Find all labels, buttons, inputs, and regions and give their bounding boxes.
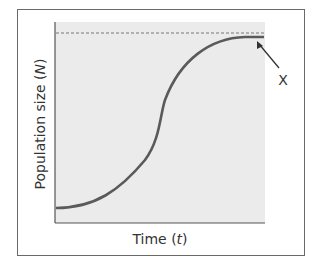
- x-axis-label: Time (t): [132, 231, 187, 247]
- y-axis-label: Population size (N): [32, 58, 48, 189]
- annotation-label: X: [278, 72, 288, 88]
- chart-plot: [0, 0, 321, 266]
